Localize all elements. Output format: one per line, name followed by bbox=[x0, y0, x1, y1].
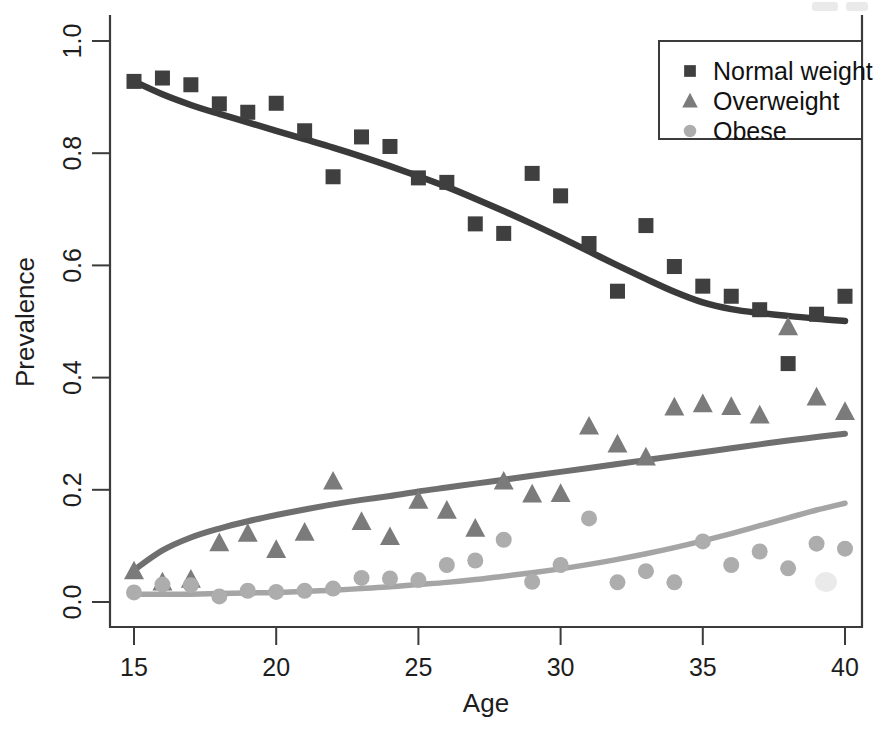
data-point-normal-weight bbox=[326, 169, 341, 184]
data-point-obese bbox=[410, 572, 426, 588]
x-tick-label: 30 bbox=[547, 653, 575, 681]
data-point-normal-weight bbox=[127, 74, 142, 89]
data-point-normal-weight bbox=[582, 236, 597, 251]
data-point-obese bbox=[467, 552, 483, 568]
data-point-normal-weight bbox=[525, 166, 540, 181]
x-axis-title: Age bbox=[463, 688, 509, 718]
data-point-normal-weight bbox=[724, 289, 739, 304]
y-tick-label: 1.0 bbox=[58, 24, 86, 59]
data-point-obese bbox=[581, 510, 597, 526]
y-tick-label: 0.0 bbox=[58, 585, 86, 620]
x-tick-label: 20 bbox=[262, 653, 290, 681]
data-point-obese bbox=[666, 574, 682, 590]
data-point-normal-weight bbox=[610, 284, 625, 299]
y-tick-label: 0.6 bbox=[58, 248, 86, 283]
data-point-normal-weight bbox=[667, 259, 682, 274]
data-point-obese bbox=[524, 574, 540, 590]
legend-label-normal-weight: Normal weight bbox=[713, 57, 873, 85]
data-point-normal-weight bbox=[240, 105, 255, 120]
data-point-normal-weight bbox=[838, 289, 853, 304]
data-point-obese bbox=[837, 541, 853, 557]
y-tick-label: 0.4 bbox=[58, 360, 86, 395]
data-point-obese bbox=[752, 544, 768, 560]
data-point-obese bbox=[183, 577, 199, 593]
x-tick-label: 25 bbox=[404, 653, 432, 681]
data-point-obese bbox=[553, 557, 569, 573]
data-point-obese bbox=[609, 574, 625, 590]
data-point-obese bbox=[240, 583, 256, 599]
data-point-obese bbox=[809, 536, 825, 552]
data-point-obese bbox=[297, 583, 313, 599]
data-point-obese bbox=[439, 557, 455, 573]
data-point-normal-weight bbox=[496, 226, 511, 241]
data-point-obese bbox=[325, 581, 341, 597]
data-point-obese bbox=[382, 570, 398, 586]
data-point-normal-weight bbox=[354, 129, 369, 144]
y-axis-title: Prevalence bbox=[10, 257, 40, 387]
data-point-normal-weight bbox=[809, 307, 824, 322]
data-point-normal-weight bbox=[695, 279, 710, 294]
data-point-normal-weight bbox=[752, 302, 767, 317]
chart-legend[interactable]: Normal weightOverweightObese bbox=[659, 41, 873, 145]
data-point-obese bbox=[154, 577, 170, 593]
data-point-normal-weight bbox=[183, 77, 198, 92]
data-point-obese bbox=[695, 533, 711, 549]
data-point-obese bbox=[268, 584, 284, 600]
data-point-obese bbox=[638, 563, 654, 579]
data-point-normal-weight bbox=[269, 96, 284, 111]
legend-marker-normal-weight bbox=[684, 65, 696, 77]
x-tick-label: 40 bbox=[831, 653, 859, 681]
data-point-normal-weight bbox=[553, 188, 568, 203]
x-tick-label: 15 bbox=[120, 653, 148, 681]
data-point-normal-weight bbox=[297, 123, 312, 138]
y-tick-label: 0.2 bbox=[58, 472, 86, 507]
data-point-obese bbox=[496, 532, 512, 548]
data-point-normal-weight bbox=[411, 170, 426, 185]
data-point-obese bbox=[780, 560, 796, 576]
legend-label-obese: Obese bbox=[713, 117, 787, 145]
data-point-obese bbox=[211, 588, 227, 604]
data-point-normal-weight bbox=[638, 218, 653, 233]
data-point-normal-weight bbox=[155, 71, 170, 86]
data-point-obese bbox=[723, 557, 739, 573]
data-point-obese bbox=[354, 570, 370, 586]
data-point-normal-weight bbox=[382, 139, 397, 154]
legend-label-overweight: Overweight bbox=[713, 87, 839, 115]
x-tick-label: 35 bbox=[689, 653, 717, 681]
data-point-normal-weight bbox=[468, 216, 483, 231]
legend-marker-obese bbox=[684, 125, 696, 137]
chart-figure: 0.00.20.40.60.81.0 152025303540 Age Prev… bbox=[0, 0, 887, 736]
data-point-obese bbox=[126, 584, 142, 600]
y-tick-label: 0.8 bbox=[58, 136, 86, 171]
data-point-normal-weight bbox=[781, 356, 796, 371]
prevalence-vs-age-scatter-plot: 0.00.20.40.60.81.0 152025303540 Age Prev… bbox=[0, 0, 887, 736]
data-point-normal-weight bbox=[212, 96, 227, 111]
data-point-normal-weight bbox=[439, 175, 454, 190]
